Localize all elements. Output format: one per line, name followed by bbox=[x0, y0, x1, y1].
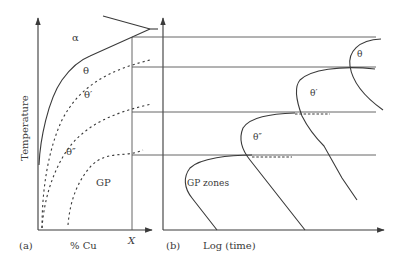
temperature-axis-label: Temperature bbox=[19, 95, 30, 161]
panel-b-ttt-diagram: θ θ′ θ″ GP zones (b) Log (time) bbox=[132, 18, 384, 251]
gp-label: GP bbox=[96, 177, 111, 188]
theta-solvus-curve bbox=[39, 29, 150, 165]
gp-zones-curve-label: GP zones bbox=[187, 178, 229, 188]
alpha-label: α bbox=[72, 32, 79, 43]
theta-double-prime-curve-label: θ″ bbox=[253, 132, 262, 142]
panel-a-phase-diagram: α θ θ′ θ″ GP Temperature (a) % Cu X bbox=[19, 16, 158, 251]
theta-curve-label: θ bbox=[357, 49, 362, 59]
log-time-axis-label: Log (time) bbox=[203, 240, 256, 251]
theta-double-prime-c-curve bbox=[241, 113, 305, 230]
theta-label: θ bbox=[83, 65, 89, 76]
theta-c-curve bbox=[350, 39, 383, 110]
cu-axis-label: % Cu bbox=[70, 240, 97, 251]
panel-b-caption: (b) bbox=[166, 240, 180, 251]
theta-double-prime-solvus-curve bbox=[42, 104, 152, 228]
precipitation-diagram: α θ θ′ θ″ GP Temperature (a) % Cu X θ θ′ bbox=[0, 0, 406, 266]
theta-prime-curve-label: θ′ bbox=[310, 88, 317, 98]
composition-x-label: X bbox=[127, 235, 136, 246]
theta-double-prime-label: θ″ bbox=[66, 146, 76, 157]
gp-zones-c-curve bbox=[185, 155, 252, 230]
theta-prime-label: θ′ bbox=[84, 89, 93, 100]
panel-a-caption: (a) bbox=[19, 240, 33, 251]
theta-prime-c-curve bbox=[296, 68, 375, 200]
liquidus-line bbox=[103, 16, 150, 29]
